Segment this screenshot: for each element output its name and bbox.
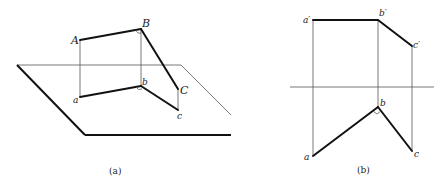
label-a: a [73, 95, 78, 105]
line-ab-top [313, 107, 378, 156]
label-c: c [177, 111, 182, 121]
right-angle-mark-b-top [373, 111, 381, 114]
caption-a: (a) [109, 166, 121, 176]
label-a-prime: a′ [303, 15, 310, 25]
label-c-prime: c′ [413, 40, 420, 50]
plane-right-edge [181, 65, 231, 115]
label-a: a [304, 152, 309, 162]
figure-b: a′ b′ c′ b a c (b) [290, 8, 434, 175]
label-B: B [141, 17, 150, 30]
line-ab [80, 86, 141, 97]
label-b: b [142, 77, 148, 87]
label-b-prime: b′ [379, 8, 387, 18]
line-bc [141, 86, 178, 110]
label-C: C [180, 84, 189, 97]
label-c: c [414, 149, 419, 159]
caption-b: (b) [357, 165, 370, 175]
label-A: A [70, 34, 79, 47]
figure-a: A B C a b c (a) [17, 17, 231, 176]
label-b: b [380, 98, 386, 108]
line-b-prime-c-prime [378, 20, 412, 46]
line-bc-top [378, 107, 412, 151]
line-AB [80, 29, 141, 40]
projection-diagram: A B C a b c (a) a′ b′ c′ b a c (b) [0, 0, 445, 187]
